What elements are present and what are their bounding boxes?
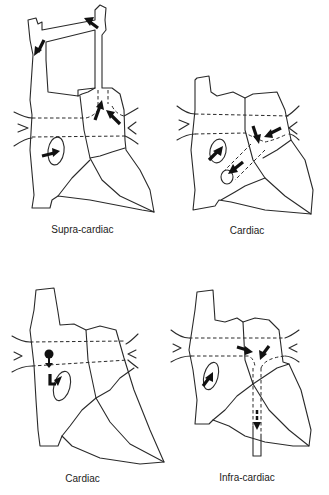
caption-cardiac-2: Cardiac <box>0 473 165 484</box>
panel-cardiac-2: Cardiac <box>0 250 165 495</box>
panel-cardiac-1: Cardiac <box>165 0 329 250</box>
caption-cardiac-1: Cardiac <box>165 225 329 236</box>
infra-cardiac-heart-diagram <box>165 250 329 495</box>
cardiac-1-heart-diagram <box>165 0 329 250</box>
supra-cardiac-heart-diagram <box>0 0 165 250</box>
panel-infra-cardiac: Infra-cardiac <box>165 250 329 495</box>
caption-infra-cardiac: Infra-cardiac <box>165 472 329 483</box>
panel-supra-cardiac: Supra-cardiac <box>0 0 165 250</box>
cardiac-2-heart-diagram <box>0 250 165 495</box>
caption-supra-cardiac: Supra-cardiac <box>0 224 165 235</box>
